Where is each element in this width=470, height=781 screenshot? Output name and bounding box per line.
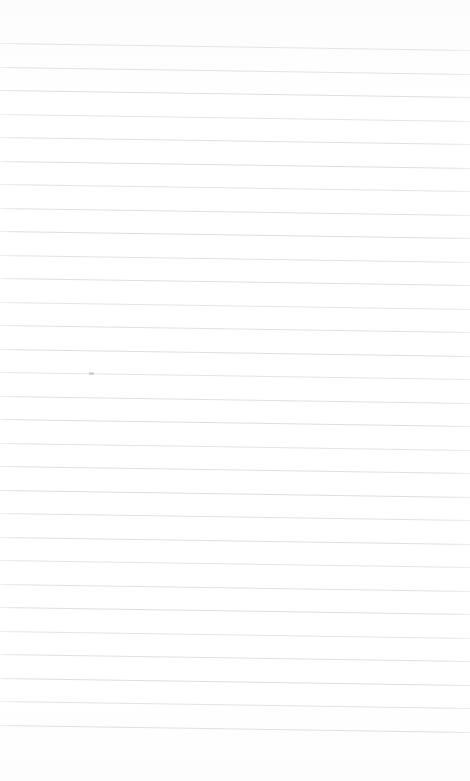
rule-line [0,255,470,263]
rule-line [0,607,470,615]
ruled-lines-group [0,0,470,781]
rule-line [0,654,470,662]
rule-line [0,537,470,545]
rule-line [0,443,470,451]
rule-line [0,184,470,192]
rule-line [0,419,470,427]
rule-line [0,208,470,216]
rule-line [0,231,470,239]
rule-line [0,396,470,404]
rule-line [0,678,470,686]
rule-line [0,513,470,521]
rule-line [0,631,470,639]
rule-line [0,137,470,145]
rule-line [0,114,470,122]
rule-line [0,490,470,498]
rule-line [0,90,470,98]
rule-line [0,560,470,568]
rule-line [0,584,470,592]
rule-line [0,349,470,357]
rule-line [0,701,470,709]
rule-line [0,161,470,169]
rule-line [0,67,470,75]
ruled-paper-sheet [0,0,470,781]
bottom-margin-blank-area [0,726,470,781]
rule-line [0,43,470,51]
rule-line [0,466,470,474]
rule-line [0,302,470,310]
rule-line [0,325,470,333]
stray-pencil-mark [89,372,94,375]
rule-line [0,372,470,380]
rule-line [0,278,470,286]
